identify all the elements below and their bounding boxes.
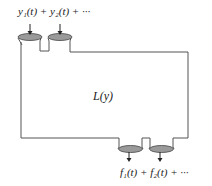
- outputs-label: f₁(t) + f₂(t) + ···: [120, 166, 189, 178]
- output-arrow-2: [158, 152, 163, 162]
- output-nozzle-1: [118, 146, 143, 153]
- inputs-label: y₁(t) + y₂(t) + ···: [18, 5, 90, 17]
- system-label: L(y): [93, 89, 113, 104]
- output-arrow-1: [127, 152, 132, 162]
- system-diagram: y₁(t) + y₂(t) + ··· L(y) f₁(t) + f₂(t) +…: [0, 0, 212, 186]
- output-nozzle-2: [149, 146, 174, 153]
- input-nozzle-1: [18, 34, 42, 46]
